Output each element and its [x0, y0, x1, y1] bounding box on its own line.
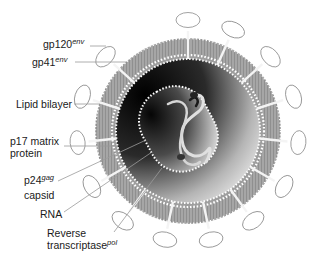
gp120-knob	[176, 13, 200, 28]
label-p24-sup: gag	[42, 173, 55, 182]
label-gp41-text: gp41	[32, 56, 55, 68]
label-gp41: gp41env	[32, 56, 67, 68]
label-rna-text: RNA	[40, 208, 62, 220]
gp120-knob	[72, 83, 94, 110]
label-gp120-text: gp120	[43, 38, 72, 50]
gp120-knob	[290, 130, 307, 155]
gp120-knob	[69, 130, 86, 155]
gp120-knob	[272, 172, 297, 200]
label-gp120-sup: env	[72, 37, 84, 46]
label-p17-line1: p17 matrix	[10, 135, 59, 147]
gp120-knob	[219, 18, 247, 41]
label-rna: RNA	[40, 208, 62, 220]
gp120-knob	[239, 208, 267, 234]
label-gp120: gp120env	[43, 38, 84, 50]
label-gp41-sup: env	[55, 55, 67, 64]
label-lipid-bilayer-text: Lipid bilayer	[16, 98, 72, 110]
label-p17-line2: protein	[10, 147, 59, 159]
gp120-knob	[152, 230, 179, 250]
gp120-knob	[79, 172, 104, 200]
label-p17-matrix: p17 matrix protein	[10, 135, 59, 159]
label-p24-text: p24	[24, 174, 42, 186]
gp120-knob	[283, 83, 305, 110]
label-lipid-bilayer: Lipid bilayer	[16, 98, 72, 110]
label-reverse-transcriptase: Reverse transcriptasepol	[47, 227, 117, 251]
gp120-knob	[198, 230, 225, 250]
label-rt-line2: transcriptase	[47, 239, 107, 251]
label-rt-sup: pol	[107, 238, 117, 247]
label-capsid-text: capsid	[24, 189, 54, 201]
label-p24-capsid: p24gag capsid	[24, 174, 54, 201]
